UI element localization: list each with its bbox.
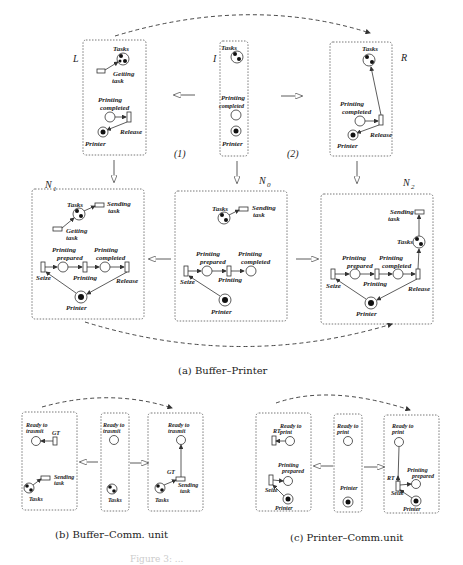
svg-text:N: N [402, 177, 411, 188]
svg-text:Printing: Printing [238, 250, 263, 258]
svg-text:Printing: Printing [363, 280, 388, 288]
svg-text:prepared: prepared [346, 262, 373, 270]
svg-text:trasmit: trasmit [168, 428, 186, 434]
svg-text:Tasks: Tasks [397, 238, 413, 246]
svg-text:task: task [112, 77, 124, 85]
svg-text:print: print [336, 429, 349, 435]
svg-text:Printer: Printer [222, 140, 243, 148]
svg-text:N: N [258, 175, 267, 186]
svg-text:Tasks: Tasks [29, 496, 43, 502]
svg-text:completed: completed [241, 258, 271, 266]
svg-text:print: print [391, 429, 404, 435]
caption-c: (c) Printer–Comm.unit [290, 532, 403, 543]
petri-net-figure: L Tasks Getting task Printing completed … [0, 0, 463, 565]
svg-text:N: N [44, 179, 53, 190]
panel-b-mid: Ready to trasmit Tasks [101, 413, 129, 511]
rule-I-box: I Tasks Printing completed Printer [212, 41, 248, 156]
svg-text:Printing: Printing [73, 274, 98, 282]
svg-text:Printer: Printer [337, 142, 358, 150]
svg-text:Release: Release [407, 285, 430, 293]
svg-text:Release: Release [119, 128, 142, 136]
svg-text:Tasks: Tasks [108, 497, 122, 503]
net-N0-box: Tasks Sending task Printing prepared Pri… [175, 191, 287, 321]
rule-L-box: L Tasks Getting task Printing completed … [72, 40, 146, 155]
svg-text:print: print [279, 429, 292, 435]
svg-text:Printing: Printing [98, 96, 123, 104]
caption-b: (b) Buffer–Comm. unit [55, 529, 168, 540]
transition-release [127, 112, 131, 122]
svg-text:GT: GT [167, 469, 175, 475]
svg-text:completed: completed [219, 103, 245, 109]
place-printing-completed [105, 112, 115, 122]
svg-text:R: R [400, 52, 407, 63]
label-L: L [72, 53, 79, 64]
svg-text:Printing: Printing [94, 246, 119, 254]
svg-text:Printer: Printer [85, 140, 106, 148]
svg-text:Printer: Printer [340, 485, 358, 491]
svg-text:Printing: Printing [218, 276, 243, 284]
svg-text:Printing: Printing [221, 94, 246, 102]
transition-getting-task [97, 69, 105, 73]
place-tasks [117, 53, 129, 65]
svg-text:Tasks: Tasks [155, 497, 169, 503]
svg-text:task: task [54, 480, 64, 486]
svg-text:RT: RT [386, 475, 395, 481]
svg-text:RT: RT [272, 428, 281, 434]
svg-text:prepared: prepared [411, 473, 435, 479]
figure-caption: Figure 3: ... [130, 554, 184, 564]
svg-text:Tasks: Tasks [221, 44, 237, 52]
net-N2-box: Sending task Tasks Printing prepared Pri… [321, 194, 433, 324]
svg-text:trasmit: trasmit [103, 428, 121, 434]
svg-text:Seize: Seize [180, 278, 195, 286]
svg-text:GT: GT [52, 430, 60, 436]
svg-text:I: I [212, 53, 217, 64]
svg-text:Seize: Seize [326, 282, 341, 290]
svg-text:Tasks: Tasks [212, 205, 228, 213]
svg-text:Printing: Printing [342, 254, 367, 262]
label-tasks: Tasks [113, 45, 129, 53]
svg-text:Release: Release [115, 277, 138, 285]
svg-text:Printer: Printer [211, 308, 232, 316]
svg-text:prepared: prepared [281, 468, 305, 474]
svg-text:Printer: Printer [66, 304, 87, 312]
svg-text:Printer: Printer [356, 310, 377, 318]
top-dashed-arrow [115, 15, 370, 36]
caption-a: (a) Buffer–Printer [178, 365, 268, 376]
svg-text:task: task [66, 234, 78, 242]
panel-c-left: Ready to print RT Printing prepared Seiz… [256, 413, 311, 511]
panel-b-right: Ready to trasmit GT Sending task Tasks [148, 413, 203, 511]
svg-text:Printer: Printer [275, 505, 293, 511]
svg-text:0: 0 [267, 181, 271, 189]
panel-c-mid: Ready to print Printer [334, 414, 362, 512]
panel-b-left: Ready to trasmit GT Sending task Tasks [22, 412, 77, 510]
svg-text:completed: completed [342, 108, 372, 116]
svg-text:Seize: Seize [36, 274, 51, 282]
svg-text:Printing: Printing [340, 100, 365, 108]
svg-text:Printer: Printer [403, 506, 421, 512]
svg-text:Tasks: Tasks [362, 45, 378, 53]
svg-text:task: task [388, 215, 400, 223]
net-N1-box: Tasks Sending task Getting task Printing… [32, 189, 144, 319]
svg-text:completed: completed [100, 104, 130, 112]
bottom-dashed-arrow [85, 322, 392, 347]
svg-text:(2): (2) [287, 148, 299, 160]
svg-text:Release: Release [369, 131, 392, 139]
svg-text:prepared: prepared [56, 254, 83, 262]
rule-R-box: R Tasks Printing completed Release Print… [330, 42, 407, 156]
svg-text:(1): (1) [174, 148, 186, 160]
svg-text:completed: completed [96, 254, 126, 262]
svg-text:prepared: prepared [199, 258, 226, 266]
svg-text:Printing: Printing [379, 254, 404, 262]
svg-text:Printing: Printing [52, 246, 77, 254]
svg-text:Tasks: Tasks [67, 201, 83, 209]
svg-text:2: 2 [411, 183, 415, 191]
panel-c-right: Ready to print RT Printing prepared Seiz… [384, 415, 439, 513]
svg-text:trasmit: trasmit [26, 428, 44, 434]
svg-text:task: task [180, 488, 190, 494]
svg-text:Printing: Printing [196, 250, 221, 258]
svg-text:task: task [108, 207, 120, 215]
svg-text:task: task [253, 211, 265, 219]
